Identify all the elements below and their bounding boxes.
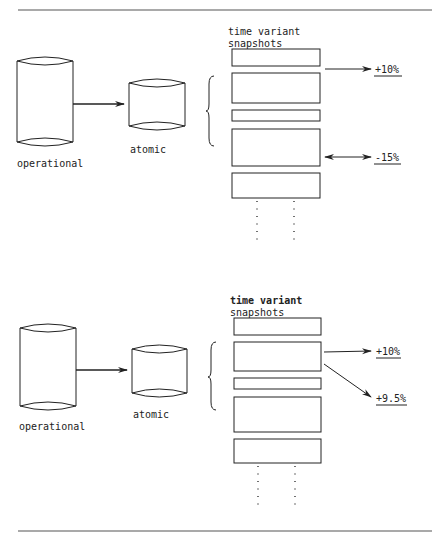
snapshot-block [234,378,321,389]
snapshots-title: snapshots [230,307,284,318]
atomic-database-icon [132,345,187,397]
annotation-label: +9.5% [376,393,406,404]
atomic-label: atomic [130,144,166,155]
atomic-database-icon [129,79,185,130]
snapshot-block [234,439,321,463]
panel-2-labels: operational atomic time variant snapshot… [19,295,406,432]
snapshot-block [232,73,320,103]
brace-icon [206,76,214,146]
annotation-label: -15% [375,152,399,163]
operational-database-icon [20,324,76,410]
atomic-label: atomic [133,409,169,420]
snapshot-block [232,173,320,198]
operational-label: operational [19,421,85,432]
panel-1 [17,49,402,246]
snapshots-title: time variant [228,26,300,37]
brace-icon [208,342,216,410]
snapshots-title: snapshots [228,38,282,49]
snapshot-block [232,49,320,66]
snapshot-block [234,397,321,432]
snapshot-block [234,342,321,371]
snapshot-block [234,318,321,335]
operational-database-icon [17,57,73,146]
diagram-canvas: operational atomic time variant snapshot… [0,0,432,535]
snapshot-block [232,129,320,166]
annotation-diagonal-arrow [324,364,371,397]
annotation-arrow [324,351,371,352]
annotation-label: +10% [375,64,399,75]
operational-label: operational [17,158,83,169]
annotation-label: +10% [376,346,400,357]
panel-2 [20,318,407,511]
panel-1-labels: operational atomic time variant snapshot… [17,26,399,169]
snapshots-title: time variant [230,295,302,306]
snapshot-block [232,110,320,121]
